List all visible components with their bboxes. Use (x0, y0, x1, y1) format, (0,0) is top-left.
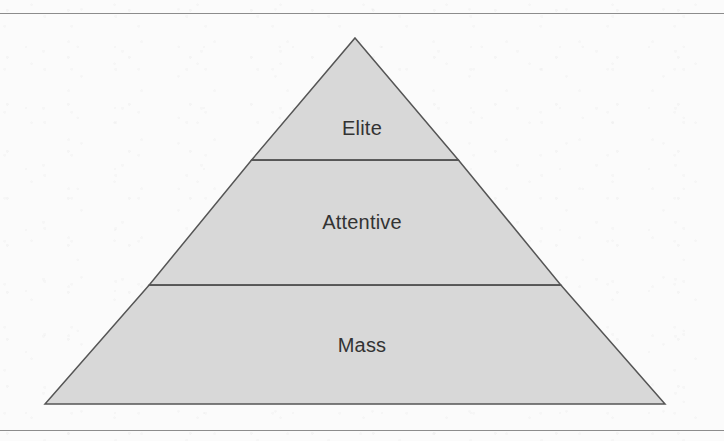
figure-canvas: Elite Attentive Mass (0, 0, 724, 441)
tier-label-mass: Mass (0, 335, 724, 355)
tier-label-attentive: Attentive (0, 212, 724, 232)
horizontal-rule-bottom (0, 430, 724, 431)
pyramid-tier-elite[interactable] (252, 38, 459, 160)
tier-label-elite: Elite (0, 118, 724, 138)
